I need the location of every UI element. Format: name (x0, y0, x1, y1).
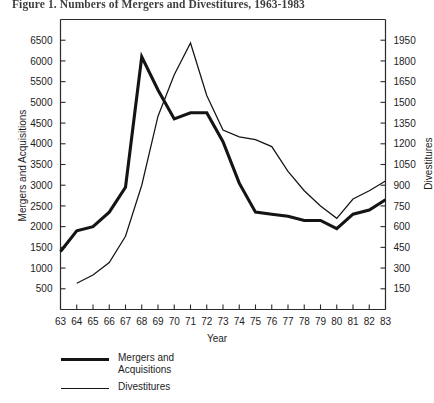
svg-text:73: 73 (217, 316, 229, 327)
axis-ticks (61, 40, 386, 309)
plot-frame (61, 20, 386, 310)
svg-text:4500: 4500 (30, 118, 53, 129)
y-axis-left-title: Mergers and Acquisitions (17, 76, 28, 256)
svg-text:82: 82 (364, 316, 376, 327)
svg-text:1800: 1800 (394, 56, 417, 67)
svg-text:1000: 1000 (30, 263, 53, 274)
figure-root: Figure 1. Numbers of Mergers and Divesti… (0, 0, 434, 403)
svg-text:66: 66 (104, 316, 116, 327)
chart-plot-area: 5001000150020002500300035004000450050005… (0, 0, 434, 345)
data-series-lines (61, 43, 386, 283)
legend-line-swatch (57, 352, 109, 366)
svg-text:68: 68 (136, 316, 148, 327)
svg-text:6500: 6500 (30, 35, 53, 46)
legend-item-0: Mergers and Acquisitions (57, 352, 357, 375)
svg-text:1500: 1500 (394, 97, 417, 108)
svg-text:450: 450 (394, 242, 411, 253)
svg-text:6000: 6000 (30, 56, 53, 67)
svg-text:80: 80 (331, 316, 343, 327)
svg-text:1500: 1500 (30, 242, 53, 253)
svg-text:63: 63 (55, 316, 67, 327)
svg-text:5000: 5000 (30, 97, 53, 108)
legend-line-swatch (57, 381, 109, 395)
svg-text:81: 81 (347, 316, 359, 327)
svg-text:65: 65 (87, 316, 99, 327)
svg-text:1350: 1350 (394, 118, 417, 129)
chart-legend: Mergers and AcquisitionsDivestitures (57, 352, 357, 401)
axis-tick-labels: 5001000150020002500300035004000450050005… (30, 35, 416, 327)
svg-text:83: 83 (380, 316, 392, 327)
series-line-0 (61, 57, 386, 252)
svg-text:70: 70 (169, 316, 181, 327)
legend-item-1: Divestitures (57, 381, 357, 395)
svg-text:72: 72 (201, 316, 213, 327)
svg-text:64: 64 (71, 316, 83, 327)
svg-text:1200: 1200 (394, 138, 417, 149)
svg-text:900: 900 (394, 180, 411, 191)
chart-svg: 5001000150020002500300035004000450050005… (0, 0, 434, 345)
svg-text:500: 500 (36, 283, 53, 294)
svg-text:1650: 1650 (394, 76, 417, 87)
svg-text:69: 69 (152, 316, 164, 327)
svg-text:2000: 2000 (30, 221, 53, 232)
svg-text:3000: 3000 (30, 180, 53, 191)
svg-text:750: 750 (394, 201, 411, 212)
svg-text:1050: 1050 (394, 159, 417, 170)
svg-text:3500: 3500 (30, 159, 53, 170)
svg-text:79: 79 (315, 316, 327, 327)
legend-item-label: Mergers and Acquisitions (118, 352, 174, 375)
svg-text:2500: 2500 (30, 201, 53, 212)
svg-text:78: 78 (299, 316, 311, 327)
svg-text:600: 600 (394, 221, 411, 232)
svg-text:74: 74 (234, 316, 246, 327)
svg-text:67: 67 (120, 316, 132, 327)
legend-item-label: Divestitures (118, 381, 170, 393)
svg-text:71: 71 (185, 316, 197, 327)
svg-text:300: 300 (394, 263, 411, 274)
svg-text:4000: 4000 (30, 138, 53, 149)
svg-text:76: 76 (266, 316, 278, 327)
svg-text:1950: 1950 (394, 35, 417, 46)
y-axis-right-title: Divestitures (423, 94, 434, 234)
svg-text:5500: 5500 (30, 76, 53, 87)
svg-text:150: 150 (394, 283, 411, 294)
svg-text:75: 75 (250, 316, 262, 327)
x-axis-title: Year (0, 333, 434, 344)
svg-text:77: 77 (282, 316, 294, 327)
